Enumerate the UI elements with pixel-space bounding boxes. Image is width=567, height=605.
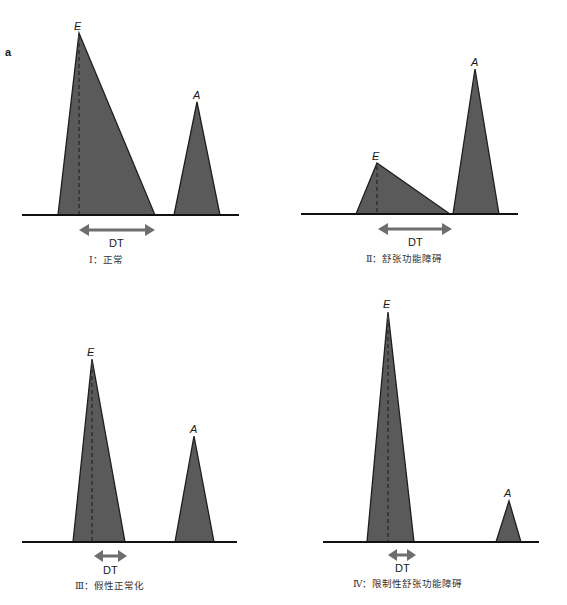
panel-letter: a [5,46,12,58]
a-label: A [470,56,478,68]
dt-arrow [94,550,127,562]
panel-caption: Ⅲ：假性正常化 [75,580,144,591]
a-label: A [503,487,511,499]
a-wave [496,501,521,542]
dt-arrow [79,224,155,236]
e-label: E [383,298,391,310]
a-label: A [192,89,200,101]
panel-caption: Ⅰ：正常 [89,254,123,265]
panel-impaired-relaxation: E A DT Ⅱ：舒张功能障碍 [301,56,518,264]
panel-pseudonormal: E A DT Ⅲ：假性正常化 [22,346,237,591]
a-label: A [189,423,197,435]
e-wave [73,359,125,542]
dt-arrow [388,549,416,561]
a-wave [174,102,220,215]
e-label: E [87,346,95,358]
e-wave [58,33,155,215]
diastolic-function-diagram: a E A DT Ⅰ：正常 E A DT Ⅱ：舒张功能障碍 [0,0,567,605]
dt-label: DT [103,564,118,576]
dt-label: DT [109,237,124,249]
e-label: E [372,150,380,162]
dt-label: DT [395,562,410,574]
panel-normal: E A DT Ⅰ：正常 [22,20,239,265]
dt-arrow [378,223,452,235]
dt-label: DT [408,236,423,248]
e-label: E [74,20,82,32]
panel-caption: Ⅳ：限制性舒张功能障碍 [353,578,463,589]
panel-caption: Ⅱ：舒张功能障碍 [366,253,442,264]
panel-restrictive: E A DT Ⅳ：限制性舒张功能障碍 [323,298,539,589]
e-wave [367,312,414,542]
e-wave [356,163,450,214]
a-wave [175,436,214,542]
a-wave [453,69,499,214]
